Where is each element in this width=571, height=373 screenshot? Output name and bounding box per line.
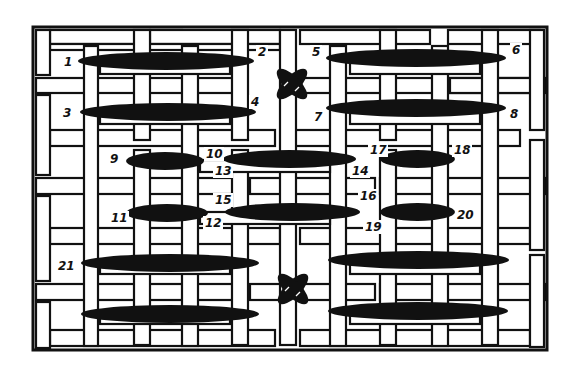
lattice-bar-vertical <box>182 46 198 346</box>
stitch-number-label: 1 <box>64 55 72 69</box>
stitch-s11 <box>81 254 259 272</box>
lattice-bar-vertical <box>530 30 544 130</box>
stitch-s8 <box>126 204 208 222</box>
stitch-s13 <box>81 305 259 323</box>
lattice-bar-vertical <box>36 196 50 281</box>
stitch-s2 <box>326 49 506 67</box>
lattice-bar-vertical <box>530 140 544 250</box>
stitch-number-label: 14 <box>352 164 369 178</box>
stitch-number-label: 7 <box>314 110 323 124</box>
stitch-number-label: 16 <box>360 189 377 203</box>
stitch-s10 <box>380 203 455 221</box>
stitch-s9 <box>225 203 360 221</box>
stitch-number-label: 10 <box>206 147 223 161</box>
lattice-bar-horizontal <box>250 284 375 300</box>
stitch-number-label: 18 <box>454 143 471 157</box>
stitch-number-label: 20 <box>457 208 474 222</box>
lattice-bar-horizontal <box>150 30 280 44</box>
lattice-bar-vertical <box>36 302 50 348</box>
stitch-s7 <box>380 150 455 168</box>
lattice-bar-horizontal <box>380 284 545 300</box>
lattice-bar-vertical <box>432 46 448 346</box>
stitch-number-label: 5 <box>312 45 320 59</box>
stitch-number-label: 17 <box>370 143 387 157</box>
stitch-s12 <box>328 251 509 269</box>
lattice-bar-vertical <box>330 46 346 346</box>
stitch-number-label: 12 <box>205 216 222 230</box>
lattice-bar-vertical <box>84 46 98 346</box>
stitch-number-label: 4 <box>250 95 259 109</box>
lattice-bar-horizontal <box>250 178 375 194</box>
stitch-number-label: 11 <box>111 211 128 225</box>
stitch-number-label: 2 <box>258 45 266 59</box>
stitch-s3 <box>80 103 256 121</box>
stitch-number-label: 19 <box>365 220 382 234</box>
stitch-s5 <box>126 152 204 170</box>
stitch-number-label: 21 <box>58 259 75 273</box>
lattice-bar-horizontal <box>300 30 430 44</box>
stitch-number-label: 3 <box>63 106 71 120</box>
stitch-number-label: 15 <box>215 193 232 207</box>
lattice-bar-vertical <box>232 30 248 140</box>
lattice-bar-horizontal <box>380 178 545 194</box>
stitch-diagram: 125634789101718131415161112192021 <box>0 0 571 373</box>
lattice-bar-vertical <box>530 255 544 347</box>
lattice-bar-vertical <box>36 95 50 175</box>
lattice-bar-vertical <box>482 30 498 345</box>
stitch-s6 <box>223 150 356 168</box>
stitch-s14 <box>328 302 508 320</box>
stitch-number-label: 8 <box>510 107 518 121</box>
stitch-number-label: 6 <box>512 43 520 57</box>
stitch-s4 <box>326 99 506 117</box>
stitch-number-label: 9 <box>110 152 118 166</box>
stitch-s1 <box>78 52 254 70</box>
lattice-bar-vertical <box>36 30 50 75</box>
stitch-number-label: 13 <box>215 164 232 178</box>
